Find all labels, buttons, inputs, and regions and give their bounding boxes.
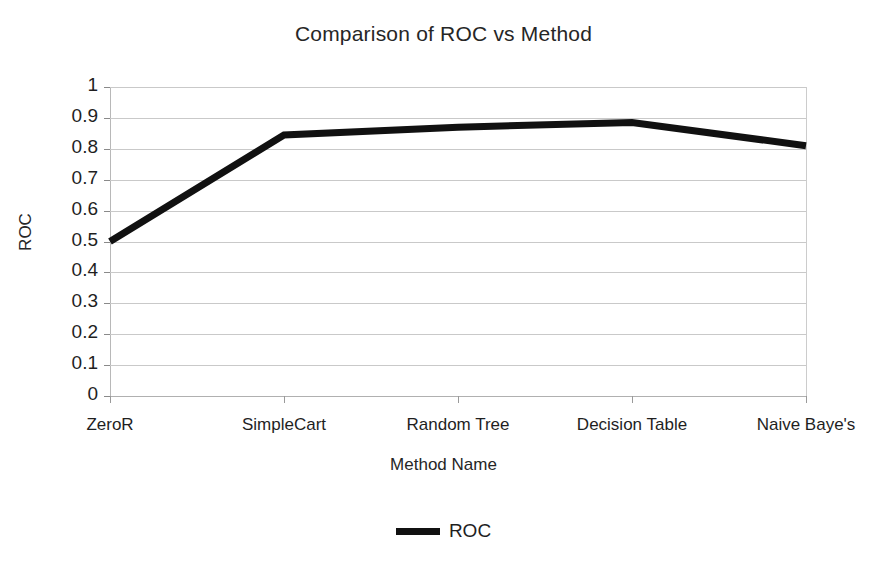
y-tick-mark (104, 334, 110, 335)
x-axis-title: Method Name (0, 455, 887, 475)
y-tick-mark (104, 180, 110, 181)
x-tick-label-simplecart: SimpleCart (184, 415, 384, 435)
x-tick-label-naive-baye-s: Naive Baye's (706, 415, 887, 435)
legend-line-swatch-icon (396, 528, 440, 535)
y-tick-label: 0.2 (12, 321, 98, 343)
x-tick-mark (458, 396, 459, 403)
x-tick-mark (284, 396, 285, 403)
y-tick-label: 0.7 (12, 167, 98, 189)
y-tick-label: 0.1 (12, 352, 98, 374)
y-tick-label: 0.6 (12, 198, 98, 220)
roc-vs-method-chart: Comparison of ROC vs Method ROC 10.90.80… (0, 0, 887, 577)
y-tick-mark (104, 87, 110, 88)
y-tick-label: 1 (12, 74, 98, 96)
y-tick-mark (104, 365, 110, 366)
y-tick-label: 0 (12, 383, 98, 405)
y-tick-mark (104, 303, 110, 304)
y-tick-label: 0.8 (12, 136, 98, 158)
y-tick-label: 0.9 (12, 105, 98, 127)
y-axis-tick-labels: 10.90.80.70.60.50.40.30.20.10 (0, 0, 887, 577)
legend-item[interactable]: ROC (396, 520, 491, 542)
chart-legend: ROC (0, 520, 887, 542)
y-tick-mark (104, 211, 110, 212)
y-tick-mark (104, 118, 110, 119)
y-tick-label: 0.3 (12, 290, 98, 312)
x-tick-label-zeror: ZeroR (10, 415, 210, 435)
x-tick-label-random-tree: Random Tree (358, 415, 558, 435)
y-tick-label: 0.4 (12, 259, 98, 281)
x-tick-label-decision-table: Decision Table (532, 415, 732, 435)
y-tick-mark (104, 149, 110, 150)
legend-label: ROC (449, 520, 491, 542)
x-tick-mark (632, 396, 633, 403)
x-tick-mark (110, 396, 111, 403)
y-tick-mark (104, 272, 110, 273)
y-tick-label: 0.5 (12, 229, 98, 251)
x-tick-mark (806, 396, 807, 403)
y-tick-mark (104, 242, 110, 243)
